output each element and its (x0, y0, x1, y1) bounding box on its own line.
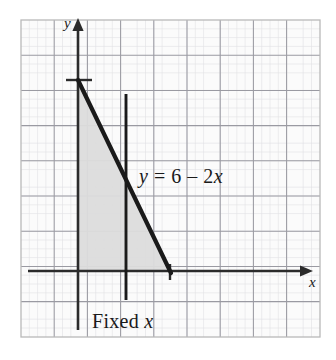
y-axis-label: y (64, 16, 71, 31)
fixed-x-part-x: x (144, 310, 153, 332)
fixed-x-label: Fixed x (92, 311, 154, 331)
equation-part-operator: = 6 – 2 (148, 165, 213, 187)
figure-container: y x y = 6 – 2x Fixed x (0, 0, 336, 360)
fixed-x-part-fixed: Fixed (92, 310, 144, 332)
equation-part-y: y (139, 165, 148, 187)
equation-label: y = 6 – 2x (139, 166, 223, 186)
x-axis-label: x (309, 275, 316, 290)
equation-part-x: x (214, 165, 223, 187)
